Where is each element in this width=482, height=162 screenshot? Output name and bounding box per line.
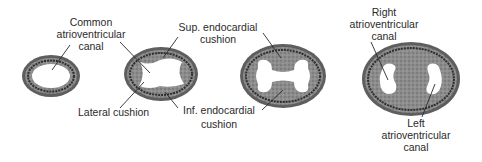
label-inf-endocardial-cushion: Inf. endocardial cushion <box>183 104 255 130</box>
right-canal-line-1: Right <box>372 6 397 18</box>
label-left-av-canal: Left atrioventricular canal <box>382 117 451 153</box>
label-right-av-canal: Right atrioventricular canal <box>350 6 419 42</box>
common-canal-line-3: canal <box>78 40 103 52</box>
label-common-canal: Common atrioventricular canal <box>57 16 126 52</box>
right-canal-line-3: canal <box>371 30 396 42</box>
common-canal-line-1: Common <box>70 16 113 28</box>
label-sup-endocardial-cushion: Sup. endocardial cushion <box>179 21 258 45</box>
common-canal-lumen <box>32 64 70 88</box>
sup-cushion-line-2: cushion <box>200 33 236 45</box>
right-canal-line-2: atrioventricular <box>350 18 419 30</box>
stage-3-ring <box>240 44 326 108</box>
label-lateral-cushion: Lateral cushion <box>78 106 149 118</box>
left-canal-line-1: Left <box>407 117 425 129</box>
inf-cushion-line-1: Inf. endocardial <box>183 104 255 116</box>
inf-cushion-line-2: cushion <box>201 118 237 130</box>
stage-4-ring <box>362 42 460 116</box>
common-canal-line-2: atrioventricular <box>57 28 126 40</box>
left-canal-line-3: canal <box>403 141 428 153</box>
left-canal-line-2: atrioventricular <box>382 129 451 141</box>
atrioventricular-canal-diagram: Common atrioventricular canal Lateral cu… <box>0 0 482 162</box>
stage-1-ring <box>22 55 80 97</box>
sup-cushion-line-1: Sup. endocardial <box>179 21 258 33</box>
stage-2-ring <box>124 47 198 101</box>
